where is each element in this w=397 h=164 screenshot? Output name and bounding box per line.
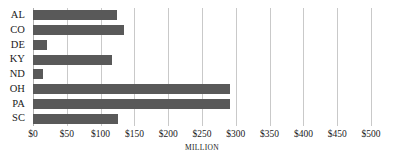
bar <box>33 99 230 109</box>
category-label: CO <box>10 25 25 36</box>
category-tick: SC <box>0 111 29 126</box>
bar <box>33 84 230 94</box>
axis-tick-label: $300 <box>226 128 245 140</box>
bar-row <box>33 111 371 126</box>
category-tick: ND <box>0 67 29 82</box>
axis-tick-label: $150 <box>125 128 144 140</box>
bar-chart: AL CO DE KY ND OH PA SC <box>0 0 397 164</box>
bar-row <box>33 8 371 23</box>
bar <box>33 10 117 20</box>
plot-area <box>33 8 371 126</box>
axis-tick-label: $50 <box>60 128 74 140</box>
bar-row <box>33 67 371 82</box>
category-label: ND <box>10 69 25 80</box>
category-tick: KY <box>0 52 29 67</box>
category-label: AL <box>11 10 25 21</box>
bar <box>33 114 118 124</box>
axis-tick-label: $400 <box>294 128 313 140</box>
axis-tick-label: $100 <box>91 128 110 140</box>
gridline <box>371 8 372 126</box>
category-label: DE <box>11 40 25 51</box>
category-label: OH <box>10 84 25 95</box>
bar <box>33 25 124 35</box>
bar <box>33 40 47 50</box>
axis-tick-label: $0 <box>28 128 38 140</box>
category-label: PA <box>12 99 25 110</box>
bar-row <box>33 23 371 38</box>
axis-tick-label: $250 <box>193 128 212 140</box>
axis-tick-label: $200 <box>159 128 178 140</box>
bar-row <box>33 52 371 67</box>
bar <box>33 69 43 79</box>
category-tick: AL <box>0 8 29 23</box>
bar-row <box>33 38 371 53</box>
category-tick: DE <box>0 38 29 53</box>
axis-tick-label: $450 <box>328 128 347 140</box>
bar-row <box>33 82 371 97</box>
category-label: SC <box>12 113 25 124</box>
axis-tick-label: $350 <box>260 128 279 140</box>
bar-row <box>33 97 371 112</box>
category-axis: AL CO DE KY ND OH PA SC <box>0 8 29 126</box>
category-label: KY <box>10 54 25 65</box>
axis-title: MILLION <box>33 143 371 153</box>
axis-title-label: MILLION <box>185 143 219 153</box>
category-tick: CO <box>0 23 29 38</box>
axis-tick-label: $500 <box>362 128 381 140</box>
bar <box>33 55 112 65</box>
category-tick: OH <box>0 82 29 97</box>
bar-series <box>33 8 371 126</box>
value-axis: $0$50$100$150$200$250$300$350$400$450$50… <box>33 128 371 142</box>
category-tick: PA <box>0 97 29 112</box>
